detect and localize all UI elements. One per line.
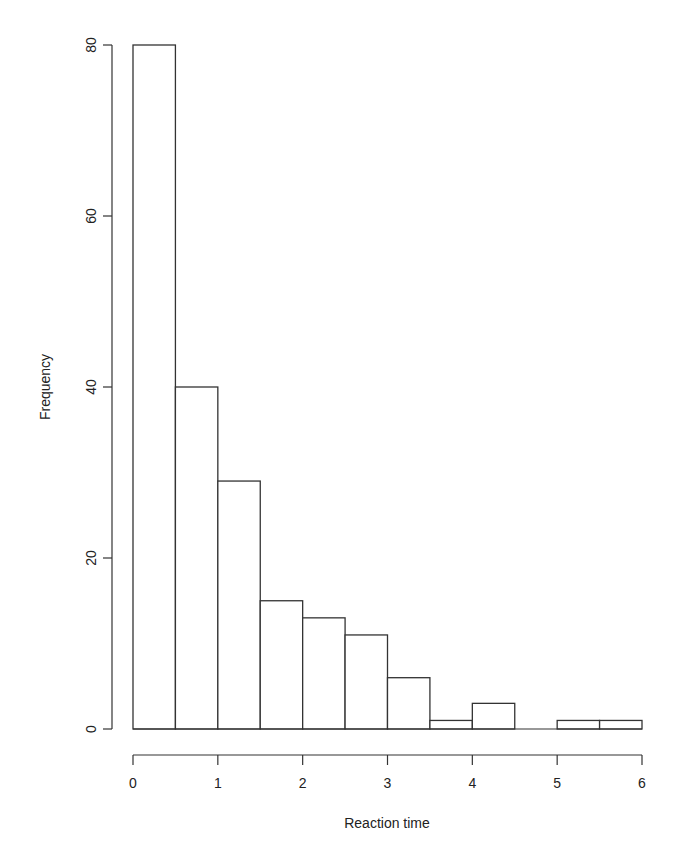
x-tick-label: 4	[468, 775, 476, 791]
y-tick-label: 20	[83, 550, 99, 566]
histogram-bar	[218, 481, 260, 729]
y-tick-label: 60	[83, 208, 99, 224]
x-axis-title: Reaction time	[344, 815, 430, 831]
histogram-bar	[557, 720, 599, 729]
x-tick-label: 3	[384, 775, 392, 791]
histogram-bar	[260, 601, 302, 729]
y-tick-label: 0	[83, 725, 99, 733]
histogram-bar	[175, 387, 217, 729]
histogram-bar	[133, 45, 175, 729]
histogram-bar	[472, 703, 514, 729]
y-axis-title: Frequency	[37, 354, 53, 420]
y-axis: 020406080	[83, 37, 112, 733]
histogram-chart: 020406080 0123456 Reaction time Frequenc…	[0, 0, 682, 866]
histogram-bars	[133, 45, 642, 729]
histogram-bar	[345, 635, 387, 729]
x-axis: 0123456	[129, 755, 646, 791]
y-tick-label: 40	[83, 379, 99, 395]
x-tick-label: 2	[299, 775, 307, 791]
histogram-bar	[430, 720, 472, 729]
x-tick-label: 5	[553, 775, 561, 791]
y-tick-label: 80	[83, 37, 99, 53]
x-tick-label: 0	[129, 775, 137, 791]
histogram-bar	[388, 678, 430, 729]
histogram-bar	[600, 720, 642, 729]
x-tick-label: 6	[638, 775, 646, 791]
x-tick-label: 1	[214, 775, 222, 791]
histogram-bar	[303, 618, 345, 729]
